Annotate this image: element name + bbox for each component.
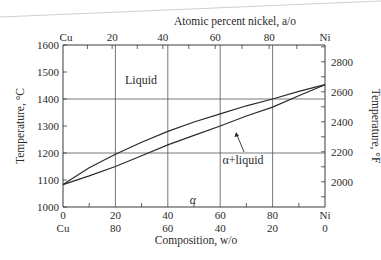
y-tick-label-right: 2000: [331, 176, 354, 188]
top-tick-label: 20: [107, 31, 119, 43]
y-axis-label-left: Temperature, °C: [14, 88, 27, 164]
x-axis-label: Composition, w/o: [155, 234, 238, 247]
plot-frame: [63, 45, 325, 207]
y-tick-label-left: 1300: [37, 120, 60, 132]
top-tick-label: 40: [157, 31, 169, 43]
x-tick-label-ni: 0: [60, 209, 66, 221]
phase-boundaries: [63, 85, 325, 185]
y-tick-label-left: 1400: [37, 93, 60, 105]
y-tick-label-left: 1500: [37, 66, 60, 78]
chart-canvas: 1000110012001300140015001600200022002400…: [0, 0, 381, 260]
y-axis-label-right: Temperature, °F: [369, 89, 381, 164]
x-tick-label-cu: 60: [162, 222, 174, 234]
x-tick-label-ni: 20: [110, 209, 122, 221]
y-tick-label-right: 2800: [331, 56, 354, 68]
x-tick-label-cu: 40: [215, 222, 227, 234]
arrow-head-icon: [235, 132, 240, 137]
pointer-arrow: [237, 135, 244, 152]
region-label-alpha: α: [190, 193, 197, 207]
top-tick-label: 60: [210, 31, 222, 43]
y-tick-label-right: 2400: [331, 116, 354, 128]
x-tick-label-ni: 80: [267, 209, 279, 221]
y-tick-label-right: 2200: [331, 146, 354, 158]
grid: [63, 45, 325, 207]
top-tick-label: Ni: [320, 31, 331, 43]
top-tick-label: 80: [264, 31, 276, 43]
liquidus-curve: [63, 85, 325, 185]
x-tick-label-cu: 0: [322, 222, 328, 234]
y-tick-label-left: 1000: [37, 201, 60, 213]
y-tick-label-left: 1100: [37, 174, 59, 186]
y-tick-label-left: 1600: [37, 39, 60, 51]
top-tick-label: Cu: [60, 31, 73, 43]
x-tick-label-cu: 80: [110, 222, 122, 234]
y-tick-label-right: 2600: [331, 86, 354, 98]
x-tick-label-cu: Cu: [57, 222, 70, 234]
region-label-liquid: Liquid: [125, 73, 157, 87]
top-axis-label: Atomic percent nickel, a/o: [174, 15, 296, 28]
y-tick-label-left: 1200: [37, 147, 60, 159]
phase-diagram: 1000110012001300140015001600200022002400…: [0, 0, 381, 260]
x-tick-label-ni: Ni: [320, 209, 331, 221]
x-tick-label-ni: 60: [215, 209, 227, 221]
x-tick-label-cu: 20: [267, 222, 279, 234]
region-label-alpha-liquid: α+liquid: [222, 153, 263, 167]
x-tick-label-ni: 40: [162, 209, 174, 221]
solidus-curve: [63, 85, 325, 185]
